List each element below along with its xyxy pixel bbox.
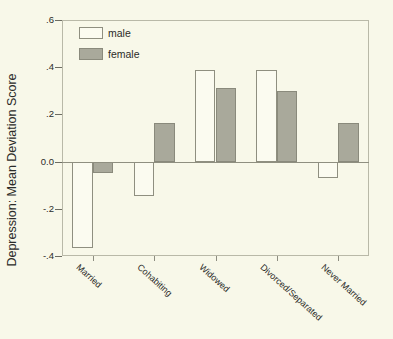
y-tick-label: .6 [30, 14, 54, 25]
bar-male-widowed [195, 70, 216, 162]
x-tick-label: Divorced/Separated [258, 262, 324, 323]
x-tick [93, 256, 94, 261]
bar-male-married [72, 162, 93, 248]
y-tick [55, 162, 62, 163]
legend-swatch-female [79, 48, 103, 60]
y-tick-label: -.4 [30, 250, 54, 261]
y-tick-label: .2 [30, 108, 54, 119]
y-tick [55, 114, 62, 115]
x-tick [154, 256, 155, 261]
x-tick [338, 256, 339, 261]
bar-male-never-married [318, 162, 339, 179]
bar-male-cohabiting [134, 162, 155, 196]
x-tick-label: Married [74, 262, 103, 290]
y-tick-label: -.2 [30, 203, 54, 214]
y-tick [55, 67, 62, 68]
x-tick-label: Widowed [197, 262, 231, 294]
bar-chart: Depression: Mean Deviation Score .6.4.20… [0, 0, 393, 339]
legend-label-male: male [108, 27, 131, 39]
legend-label-female: female [108, 48, 140, 60]
legend-item-female: female [79, 48, 140, 60]
bar-male-divorced-separated [256, 70, 277, 162]
bar-female-divorced-separated [277, 91, 298, 162]
legend: male female [79, 27, 140, 69]
y-tick [55, 256, 62, 257]
bar-female-married [93, 162, 114, 174]
x-tick-label: Cohabiting [135, 262, 174, 298]
zero-baseline [62, 162, 369, 163]
bar-female-never-married [338, 123, 359, 162]
y-tick [55, 209, 62, 210]
x-tick [216, 256, 217, 261]
y-tick-label: .4 [30, 61, 54, 72]
y-axis-title: Depression: Mean Deviation Score [2, 0, 22, 339]
bar-female-cohabiting [154, 123, 175, 162]
y-tick [55, 20, 62, 21]
legend-swatch-male [79, 27, 103, 39]
bar-female-widowed [216, 88, 237, 161]
y-axis-title-text: Depression: Mean Deviation Score [5, 73, 19, 266]
y-tick-label: 0.0 [30, 156, 54, 167]
x-tick-label: Never Married [320, 262, 369, 308]
x-tick [277, 256, 278, 261]
legend-item-male: male [79, 27, 140, 39]
